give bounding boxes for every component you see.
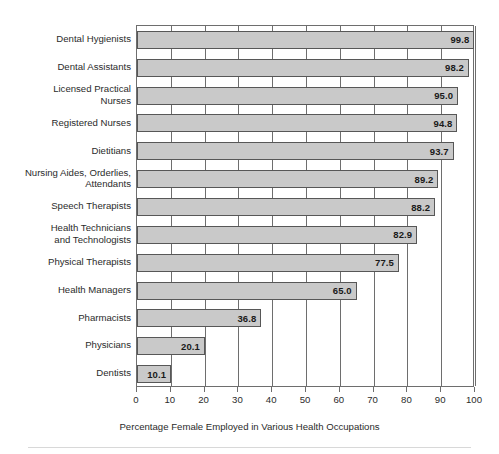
- tick-label-30: 30: [232, 394, 243, 405]
- bar[interactable]: 10.1: [137, 365, 171, 383]
- category-label: Physical Therapists: [0, 256, 131, 268]
- bar[interactable]: 93.7: [137, 142, 454, 160]
- category-label: Dietitians: [0, 145, 131, 157]
- tick-label-90: 90: [435, 394, 446, 405]
- bar-row: 36.8: [137, 309, 475, 327]
- x-axis-title: Percentage Female Employed in Various He…: [0, 421, 499, 432]
- x-axis-tick-labels: 0102030405060708090100: [136, 394, 474, 408]
- bar-chart-figure: Dental HygienistsDental AssistantsLicens…: [0, 0, 499, 454]
- category-axis-labels: Dental HygienistsDental AssistantsLicens…: [0, 25, 131, 387]
- tick-label-20: 20: [198, 394, 209, 405]
- bar-value-label: 95.0: [434, 90, 457, 101]
- tick-mark-60: [339, 387, 340, 392]
- bar-value-label: 94.8: [434, 118, 457, 129]
- bar-row: 99.8: [137, 31, 475, 49]
- category-label: Dental Hygienists: [0, 33, 131, 45]
- bar[interactable]: 20.1: [137, 337, 205, 355]
- bar-row: 20.1: [137, 337, 475, 355]
- category-label: Physicians: [0, 339, 131, 351]
- tick-label-50: 50: [300, 394, 311, 405]
- tick-mark-40: [271, 387, 272, 392]
- bar[interactable]: 82.9: [137, 226, 417, 244]
- bar-value-label: 36.8: [237, 313, 260, 324]
- tick-label-70: 70: [367, 394, 378, 405]
- bar[interactable]: 94.8: [137, 114, 457, 132]
- bar-value-label: 20.1: [181, 341, 204, 352]
- category-label: Pharmacists: [0, 312, 131, 324]
- bar-row: 82.9: [137, 226, 475, 244]
- bar-value-label: 89.2: [415, 174, 438, 185]
- bar-row: 98.2: [137, 59, 475, 77]
- tick-label-0: 0: [133, 394, 138, 405]
- bar-value-label: 77.5: [375, 257, 398, 268]
- tick-mark-50: [305, 387, 306, 392]
- bar[interactable]: 65.0: [137, 282, 357, 300]
- gridline-100: [475, 26, 476, 386]
- bar[interactable]: 99.8: [137, 31, 474, 49]
- category-label: Health Managers: [0, 284, 131, 296]
- tick-mark-10: [170, 387, 171, 392]
- bar-value-label: 93.7: [430, 146, 453, 157]
- bar-value-label: 99.8: [450, 34, 473, 45]
- plot-area: 99.898.295.094.893.789.288.282.977.565.0…: [136, 25, 474, 387]
- tick-mark-70: [373, 387, 374, 392]
- category-label: Speech Therapists: [0, 200, 131, 212]
- bar-value-label: 10.1: [147, 369, 170, 380]
- tick-mark-90: [440, 387, 441, 392]
- tick-label-80: 80: [401, 394, 412, 405]
- bar-row: 65.0: [137, 282, 475, 300]
- bar-row: 95.0: [137, 87, 475, 105]
- footer-divider: [28, 447, 471, 448]
- bar[interactable]: 95.0: [137, 87, 458, 105]
- tick-label-60: 60: [333, 394, 344, 405]
- bar-value-label: 88.2: [411, 202, 434, 213]
- bar-row: 77.5: [137, 254, 475, 272]
- category-label: Registered Nurses: [0, 117, 131, 129]
- tick-mark-0: [136, 387, 137, 392]
- bar[interactable]: 77.5: [137, 254, 399, 272]
- bars-container: 99.898.295.094.893.789.288.282.977.565.0…: [137, 26, 473, 386]
- tick-mark-80: [406, 387, 407, 392]
- category-label: Health Technicians and Technologists: [0, 222, 131, 245]
- category-label: Nursing Aides, Orderlies, Attendants: [0, 167, 131, 190]
- bar-row: 93.7: [137, 142, 475, 160]
- tick-mark-30: [237, 387, 238, 392]
- bar-value-label: 98.2: [445, 62, 468, 73]
- bar[interactable]: 36.8: [137, 309, 261, 327]
- category-label: Dental Assistants: [0, 61, 131, 73]
- tick-label-100: 100: [466, 394, 482, 405]
- bar-row: 10.1: [137, 365, 475, 383]
- bar-row: 88.2: [137, 198, 475, 216]
- x-axis-tick-marks: [136, 387, 474, 393]
- bar-row: 94.8: [137, 114, 475, 132]
- tick-mark-20: [204, 387, 205, 392]
- tick-mark-100: [474, 387, 475, 392]
- tick-label-40: 40: [266, 394, 277, 405]
- bar-value-label: 82.9: [393, 229, 416, 240]
- bar-value-label: 65.0: [333, 285, 356, 296]
- bar[interactable]: 98.2: [137, 59, 469, 77]
- bar[interactable]: 89.2: [137, 170, 438, 188]
- bar[interactable]: 88.2: [137, 198, 435, 216]
- tick-label-10: 10: [164, 394, 175, 405]
- category-label: Dentists: [0, 367, 131, 379]
- bar-row: 89.2: [137, 170, 475, 188]
- category-label: Licensed Practical Nurses: [0, 83, 131, 106]
